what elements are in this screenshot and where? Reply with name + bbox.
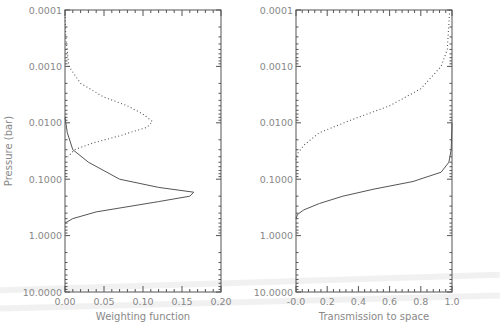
plot-frame bbox=[296, 10, 452, 292]
y-tick-label: 0.0100 bbox=[260, 117, 293, 128]
solid-curve bbox=[65, 117, 194, 223]
x-tick-label: 0.00 bbox=[54, 296, 75, 307]
dotted-curve bbox=[296, 10, 450, 160]
x-tick-label: 0.6 bbox=[382, 296, 397, 307]
x-tick-label: 0.8 bbox=[413, 296, 428, 307]
y-tick-label: 0.1000 bbox=[260, 174, 293, 185]
x-tick-label: 1.0 bbox=[444, 296, 459, 307]
x-axis-label-left: Weighting function bbox=[96, 311, 190, 322]
x-tick-label: 0.20 bbox=[210, 296, 231, 307]
y-tick-label: 0.0100 bbox=[29, 117, 62, 128]
y-tick-label: 0.0010 bbox=[29, 61, 62, 72]
x-tick-label: 0.4 bbox=[351, 296, 366, 307]
x-tick-label: 0.05 bbox=[93, 296, 114, 307]
x-tick-label: 0.15 bbox=[171, 296, 192, 307]
y-tick-label: 0.0001 bbox=[29, 5, 62, 16]
y-tick-label: 1.0000 bbox=[260, 230, 293, 241]
x-tick-label: -0.0 bbox=[287, 296, 306, 307]
y-axis-label: Pressure (bar) bbox=[3, 116, 14, 186]
y-tick-label: 0.1000 bbox=[29, 174, 62, 185]
y-tick-label: 1.0000 bbox=[29, 230, 62, 241]
dotted-curve bbox=[65, 10, 152, 157]
left-panel-weighting-function: 0.00010.00100.01000.10001.000010.00000.0… bbox=[23, 5, 232, 308]
x-axis-label-right: Transmission to space bbox=[318, 311, 429, 322]
plot-frame bbox=[65, 10, 221, 292]
y-tick-label: 0.0010 bbox=[260, 61, 293, 72]
right-panel-transmission: 0.00010.00100.01000.10001.000010.0000-0.… bbox=[254, 5, 460, 308]
solid-curve bbox=[296, 123, 452, 219]
x-tick-label: 0.2 bbox=[320, 296, 335, 307]
x-tick-label: 0.10 bbox=[132, 296, 153, 307]
y-tick-label: 0.0001 bbox=[260, 5, 293, 16]
